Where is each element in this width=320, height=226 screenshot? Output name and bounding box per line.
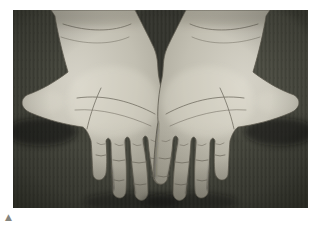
vignette-overlay xyxy=(13,10,308,208)
figure-photo xyxy=(13,10,308,208)
hands-photograph xyxy=(13,10,308,208)
page: ▲ xyxy=(0,0,320,226)
figure-marker-triangle-icon: ▲ xyxy=(5,212,12,222)
